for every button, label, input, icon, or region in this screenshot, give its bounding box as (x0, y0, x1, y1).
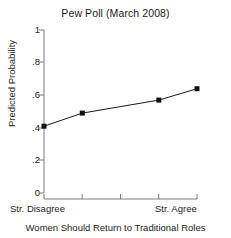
data-point (42, 124, 47, 129)
x-tick-label-left: Str. Disagree (10, 203, 65, 214)
x-tick-label-right: Str. Agree (155, 203, 197, 214)
data-point (195, 86, 200, 91)
data-point (80, 111, 85, 116)
y-axis (39, 30, 44, 193)
x-axis-title: Women Should Return to Traditional Roles (0, 222, 231, 233)
x-axis (44, 194, 197, 199)
chart-figure: Pew Poll (March 2008) Predicted Probabil… (0, 0, 231, 238)
data-series-line (44, 89, 197, 127)
data-point-markers (42, 86, 200, 129)
data-point (156, 98, 161, 103)
